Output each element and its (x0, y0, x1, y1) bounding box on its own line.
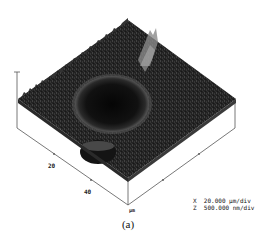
axis-unit-label: µm (129, 207, 135, 213)
scale-legend: X 20.000 µm/divZ 500.000 nm/div (193, 197, 254, 211)
axis-tick-20: 20 (48, 162, 55, 169)
x-scale-text: X 20.000 µm/div (193, 197, 254, 204)
surface (18, 18, 236, 182)
afm-figure: 20 40 µm X 20.000 µm/divZ 500.000 nm/div… (0, 0, 270, 248)
axis-tick-40: 40 (84, 188, 91, 195)
figure-caption: (a) (0, 218, 256, 230)
z-scale-text: Z 500.000 nm/div (193, 204, 254, 211)
